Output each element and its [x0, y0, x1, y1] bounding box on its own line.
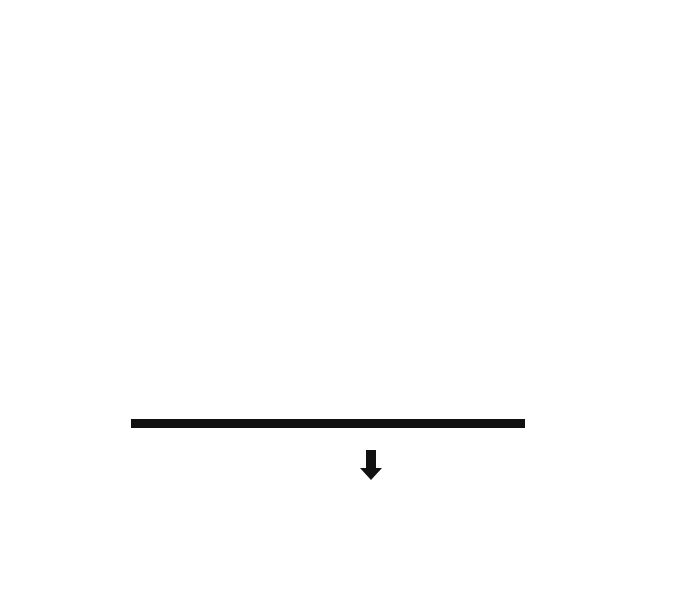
figure-root — [0, 0, 697, 598]
chart-background — [0, 0, 697, 598]
radiant-heat-annotation — [131, 419, 525, 428]
radiant-heat-bar — [131, 419, 525, 428]
physiology-chart-svg — [0, 0, 697, 598]
